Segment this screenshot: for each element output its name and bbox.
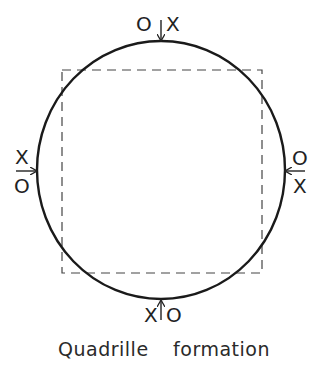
bottom-x-label: X — [144, 303, 158, 327]
right-couple: O X — [286, 146, 308, 198]
formation-circle — [37, 41, 285, 299]
right-x-label: X — [293, 174, 307, 198]
quadrille-diagram: O X X O O X X O — [0, 0, 328, 387]
left-couple: X O — [14, 145, 36, 198]
left-x-label: X — [15, 145, 29, 169]
top-x-label: X — [166, 12, 180, 36]
bottom-couple: X O — [144, 301, 182, 327]
diagram-caption: Quadrille formation — [0, 338, 328, 360]
bottom-o-label: O — [166, 303, 182, 327]
left-o-label: O — [14, 174, 30, 198]
right-o-label: O — [292, 146, 308, 170]
top-o-label: O — [136, 12, 152, 36]
top-couple: O X — [136, 12, 180, 40]
dashed-square — [62, 70, 262, 273]
